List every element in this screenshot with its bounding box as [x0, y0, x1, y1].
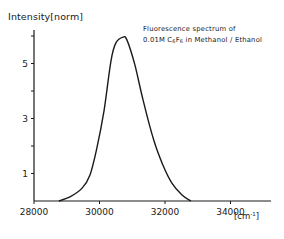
y-tick-label: 5: [22, 59, 28, 69]
y-tick-label: 3: [22, 114, 28, 124]
x-axis-unit-label: [cm-1]: [234, 211, 259, 221]
y-tick-label: 1: [22, 169, 28, 179]
x-tick-label: 30000: [85, 207, 114, 217]
fluorescence-curve: [59, 37, 191, 201]
unit-text: ]: [256, 211, 259, 221]
x-tick-label: 32000: [151, 207, 180, 217]
unit-text: [cm: [234, 211, 250, 221]
x-tick-label: 28000: [20, 207, 49, 217]
plot-area: 13528000300003200034000: [0, 0, 284, 239]
